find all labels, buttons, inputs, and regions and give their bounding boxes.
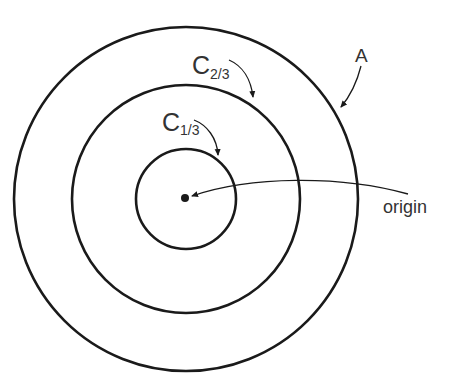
label-A: A: [355, 45, 368, 66]
label-C-1-3-main: C: [162, 108, 180, 136]
label-C-1-3-sub: 1/3: [180, 122, 200, 138]
arrow-C-2-3: [229, 60, 253, 97]
concentric-circles-diagram: A C2/3 C1/3 origin: [0, 0, 453, 391]
label-C-2-3-sub: 2/3: [210, 66, 230, 82]
label-C-1-3: C1/3: [162, 108, 200, 138]
label-C-2-3-main: C: [192, 51, 210, 79]
label-C-2-3: C2/3: [192, 51, 230, 82]
label-origin: origin: [383, 197, 427, 217]
arrow-A: [341, 66, 361, 107]
origin-point: [181, 194, 189, 202]
